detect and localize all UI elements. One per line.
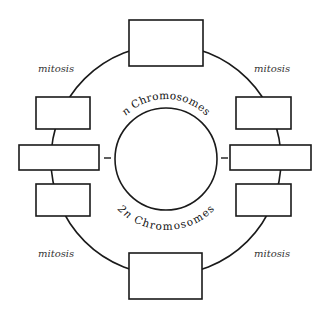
label-mitosis-top-left: mitosis [38,63,74,74]
inner-circle [115,108,217,210]
life-cycle-diagram: n Chromosomes 2n Chromosomes mitosis mit… [0,0,326,320]
box-left-middle[interactable] [19,145,99,170]
label-mitosis-top-right: mitosis [254,63,290,74]
label-mitosis-bottom-right: mitosis [254,248,290,259]
box-right-lower[interactable] [236,184,291,216]
inner-label-bottom: 2n Chromosomes [115,201,216,232]
inner-label-top: n Chromosomes [119,89,213,118]
box-right-middle[interactable] [230,145,311,170]
box-left-lower[interactable] [36,184,90,216]
label-mitosis-bottom-left: mitosis [38,248,74,259]
box-bottom[interactable] [129,253,202,299]
box-right-upper[interactable] [236,97,291,129]
box-top[interactable] [129,20,203,66]
box-left-upper[interactable] [36,97,90,129]
